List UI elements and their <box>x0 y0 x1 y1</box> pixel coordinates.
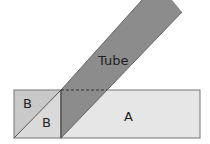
tube-diagram: Tube A B B <box>0 0 210 144</box>
tube-label: Tube <box>97 53 128 68</box>
region-b-upper-label: B <box>23 96 32 111</box>
region-b-lower-label: B <box>42 115 51 130</box>
region-a-label: A <box>124 109 133 124</box>
